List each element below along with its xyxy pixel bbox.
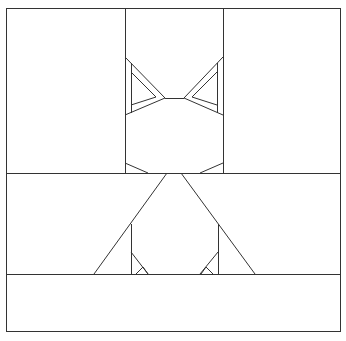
cat-head	[125, 57, 223, 173]
left-cheek	[125, 163, 148, 173]
cat-quilt-diagram	[0, 0, 346, 341]
left-paw-inner	[136, 267, 148, 274]
right-cheek	[200, 163, 223, 173]
outer-frame	[7, 9, 341, 332]
left-ear-inner	[131, 72, 156, 105]
cat-body	[94, 173, 255, 274]
body-left-side	[94, 173, 167, 274]
